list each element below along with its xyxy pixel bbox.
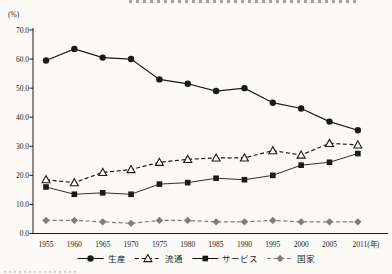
series-production-point [128, 56, 134, 62]
series-distribution-point [42, 176, 50, 183]
series-service-point [72, 191, 78, 197]
x-tick-label: 1990 [237, 240, 252, 249]
series-service-point [327, 159, 333, 165]
series-state-point [241, 218, 248, 225]
y-tick-label: 30.0 [16, 142, 29, 151]
x-tick-label: 1980 [180, 240, 195, 249]
series-distribution-point [297, 151, 305, 158]
series-state-line [46, 220, 358, 223]
series-distribution-point [70, 179, 78, 186]
series-production-point [43, 57, 49, 63]
y-tick-label: 10.0 [16, 200, 29, 209]
x-tick-label: 1985 [209, 240, 224, 249]
y-tick-label: 70.0 [16, 26, 29, 35]
series-service-point [100, 190, 106, 196]
series-distribution-line [46, 143, 358, 182]
legend-service-label: サービス [222, 254, 258, 264]
series-service-point [242, 177, 248, 183]
clipped-title-fragment [129, 0, 357, 3]
legend-production-marker [87, 255, 93, 261]
series-state-point [297, 218, 304, 225]
series-state-point [99, 218, 106, 225]
series-production-line [46, 49, 358, 130]
series-state-point [71, 217, 78, 224]
x-tick-label: 1970 [124, 240, 139, 249]
y-tick-label: 40.0 [16, 113, 29, 122]
series-service-line [46, 154, 358, 195]
line-chart: 0.010.020.030.040.050.060.070.0(%)195519… [0, 0, 392, 274]
series-service-point [355, 151, 361, 157]
series-service-point [128, 191, 134, 197]
series-service-point [270, 173, 276, 179]
x-tick-label: 2000 [294, 240, 309, 249]
y-tick-label: 60.0 [16, 55, 29, 64]
legend-state-marker [276, 255, 283, 262]
series-distribution-point [354, 141, 362, 148]
series-production-point [241, 85, 247, 91]
series-state-point [326, 218, 333, 225]
series-distribution-point [127, 166, 135, 173]
series-state-point [42, 217, 49, 224]
series-service-point [298, 162, 304, 168]
x-tick-label: 1995 [265, 240, 280, 249]
y-tick-label: 0.0 [20, 229, 30, 238]
legend-service-marker [203, 256, 209, 262]
series-service-point [213, 175, 219, 181]
series-production-point [355, 127, 361, 133]
series-production-point [156, 76, 162, 82]
legend-distribution-label: 流通 [165, 254, 183, 264]
series-state-point [127, 220, 134, 227]
series-state-point [184, 217, 191, 224]
chart-page: 0.010.020.030.040.050.060.070.0(%)195519… [0, 0, 392, 274]
x-tick-label: 1965 [95, 240, 110, 249]
x-tick-label: 1975 [152, 240, 167, 249]
legend-state-label: 国家 [297, 254, 315, 264]
x-tick-label: 1960 [67, 240, 82, 249]
series-production-point [185, 81, 191, 87]
x-tick-label: 1955 [39, 240, 54, 249]
series-production-point [298, 105, 304, 111]
series-service-point [157, 181, 163, 187]
series-service-point [185, 180, 191, 186]
clipped-footnote-fragment [4, 271, 78, 273]
series-production-point [71, 46, 77, 52]
series-production-point [100, 54, 106, 60]
series-state-point [212, 218, 219, 225]
legend-production-label: 生産 [108, 254, 126, 264]
series-state-point [269, 217, 276, 224]
series-production-point [270, 99, 276, 105]
x-tick-label: 2011(年) [352, 239, 379, 249]
series-distribution-point [212, 154, 220, 161]
series-service-point [43, 184, 49, 190]
series-distribution-point [269, 147, 277, 154]
series-state-point [156, 217, 163, 224]
series-production-point [326, 118, 332, 124]
y-tick-label: 20.0 [16, 171, 29, 180]
x-tick-label: 2005 [322, 240, 337, 249]
y-tick-label: 50.0 [16, 84, 29, 93]
series-state-point [354, 218, 361, 225]
y-axis-unit-label: (%) [8, 10, 20, 19]
series-production-point [213, 88, 219, 94]
